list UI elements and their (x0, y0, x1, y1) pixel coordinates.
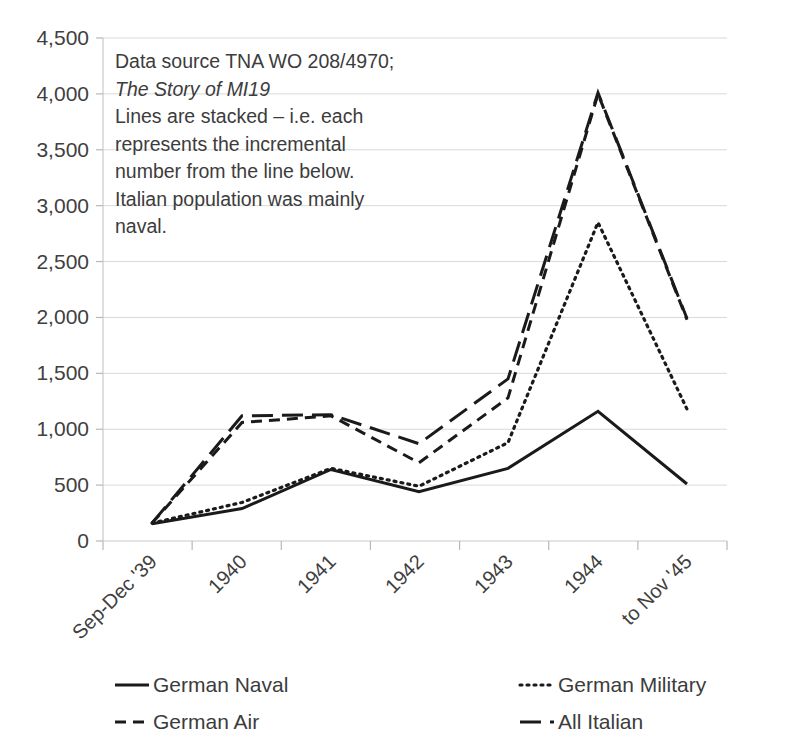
legend-label-german-air: German Air (153, 710, 259, 733)
annotation-line: number from the line below. (115, 160, 355, 182)
y-axis-tick-label: 1,500 (36, 361, 89, 384)
y-axis-tick-label: 3,000 (36, 194, 89, 217)
x-axis-tick-label: to Nov '45 (617, 550, 696, 629)
y-axis-tick-label: 4,000 (36, 82, 89, 105)
legend-label-german-naval: German Naval (153, 673, 288, 696)
y-axis-labels: 05001,0001,5002,0002,5003,0003,5004,0004… (36, 26, 89, 552)
annotation-line: Data source TNA WO 208/4970; (115, 50, 394, 72)
annotation-line: The Story of MI19 (115, 78, 270, 100)
x-axis-tick-label: 1944 (560, 550, 607, 597)
x-axis-tick-label: 1941 (293, 550, 340, 597)
y-axis-tick-label: 0 (77, 529, 89, 552)
y-axis-tick-label: 500 (54, 473, 89, 496)
x-axis-tick-label: 1940 (204, 550, 251, 597)
y-axis-tick-label: 2,000 (36, 305, 89, 328)
y-axis-tick-label: 2,500 (36, 250, 89, 273)
legend-label-all-italian: All Italian (558, 710, 643, 733)
series-line-german-air (152, 94, 687, 523)
x-axis-tick-label: 1943 (470, 550, 517, 597)
series-line-german-military (152, 222, 687, 523)
line-chart: 05001,0001,5002,0002,5003,0003,5004,0004… (0, 0, 799, 743)
annotation-line: Italian population was mainly (115, 188, 365, 210)
y-axis-tick-label: 3,500 (36, 138, 89, 161)
chart-container: 05001,0001,5002,0002,5003,0003,5004,0004… (0, 0, 799, 743)
annotation-line: Lines are stacked – i.e. each (115, 105, 363, 127)
x-axis-labels: Sep-Dec '3919401941194219431944to Nov '4… (68, 550, 696, 643)
y-axis-tick-label: 4,500 (36, 26, 89, 49)
legend-label-german-military: German Military (558, 673, 707, 696)
x-axis-tick-label: Sep-Dec '39 (68, 550, 161, 643)
x-axis-tick-label: 1942 (381, 550, 428, 597)
chart-legend: German NavalGerman MilitaryGerman AirAll… (115, 673, 707, 733)
y-axis-tick-label: 1,000 (36, 417, 89, 440)
series-line-all-italian (152, 93, 687, 523)
annotation-line: represents the incremental (115, 133, 346, 155)
chart-annotation: Data source TNA WO 208/4970;The Story of… (115, 50, 394, 237)
annotation-line: naval. (115, 215, 167, 237)
data-series (152, 93, 687, 524)
